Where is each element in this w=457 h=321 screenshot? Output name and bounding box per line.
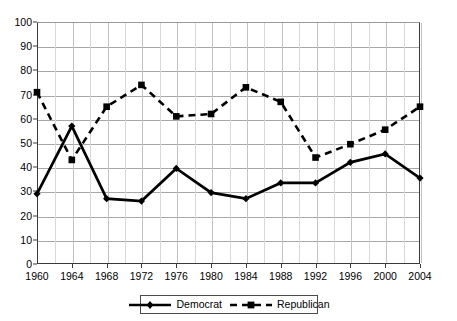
legend-label-republican: Republican — [277, 299, 330, 310]
chart-legend: Democrat Republican — [140, 295, 318, 314]
data-point-republican-1980 — [208, 111, 215, 118]
data-point-republican-1964 — [69, 157, 76, 164]
data-series-layer — [0, 0, 457, 321]
data-point-republican-2004 — [417, 103, 424, 110]
data-point-republican-1992 — [312, 154, 319, 161]
data-point-republican-1984 — [243, 84, 250, 91]
data-point-republican-1968 — [103, 103, 110, 110]
data-point-republican-1976 — [173, 113, 180, 120]
data-point-republican-1996 — [347, 141, 354, 148]
data-point-republican-2000 — [382, 126, 389, 133]
series-line-republican — [37, 85, 420, 160]
republican-line-swatch-icon — [229, 299, 273, 311]
data-point-republican-1960 — [34, 89, 41, 96]
data-point-republican-1972 — [138, 82, 145, 89]
democrat-line-swatch-icon — [128, 299, 172, 311]
line-chart: 0102030405060708090100 19601964196819721… — [0, 0, 457, 321]
legend-label-democrat: Democrat — [176, 299, 222, 310]
legend-item-republican: Republican — [229, 299, 330, 311]
legend-item-democrat: Democrat — [128, 299, 222, 311]
data-point-republican-1988 — [277, 99, 284, 106]
series-line-democrat — [37, 126, 420, 201]
